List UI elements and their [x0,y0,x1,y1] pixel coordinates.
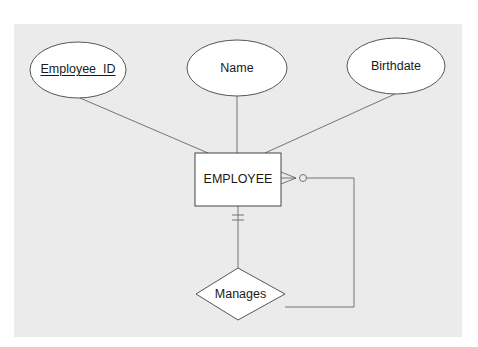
attribute-label-name: Name [187,61,287,75]
attribute-label-birthdate: Birthdate [347,59,445,73]
entity-label-employee: EMPLOYEE [195,172,281,186]
connector-manages-loop [285,178,354,307]
connector-employee-id [80,98,208,153]
crows-foot-optional-many-icon [281,172,307,184]
relationship-label-manages: Manages [196,287,285,301]
connector-birthdate [265,94,395,153]
attribute-label-employee-id: Employee_ID [30,62,126,76]
